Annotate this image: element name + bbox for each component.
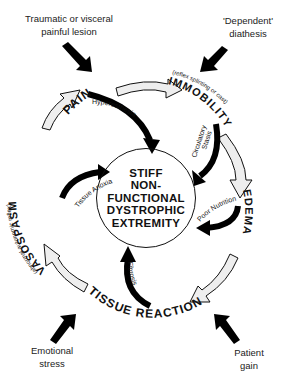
arrow-tissue-anoxia	[62, 172, 100, 198]
factor-traumatic-lesion: Traumatic or visceral painful lesion	[4, 12, 134, 38]
center-line-3: FUNCTIONAL	[107, 192, 185, 205]
arrow-traumatic	[62, 42, 92, 72]
factor-dependent-diathesis: 'Dependent' diathesis	[208, 14, 287, 40]
factor-emotional-l2: stress	[22, 357, 82, 370]
factor-patient-gain: Patient gain	[224, 346, 274, 372]
center-line-2: NON-	[131, 179, 162, 192]
arrow-emotional	[50, 314, 76, 344]
node-edema: EDEMA	[241, 188, 256, 236]
center-outcome-circle: STIFF NON- FUNCTIONAL DYSTROPHIC EXTREMI…	[96, 148, 196, 248]
svg-text:EDEMA: EDEMA	[241, 188, 256, 236]
factor-emotional-l1: Emotional	[22, 344, 82, 357]
arrow-patient-gain	[214, 314, 240, 344]
factor-traumatic-l1: Traumatic or visceral	[4, 12, 134, 25]
factor-patient-l2: gain	[224, 359, 274, 372]
arrow-tissue-to-vasospasm	[44, 244, 88, 292]
arrow-immobility-to-edema	[218, 134, 252, 198]
center-line-5: EXTREMITY	[112, 217, 181, 230]
factor-traumatic-l2: painful lesion	[4, 25, 134, 38]
factor-emotional-stress: Emotional stress	[22, 344, 82, 370]
factor-patient-l1: Patient	[224, 346, 274, 359]
factor-dependent-l2: diathesis	[208, 27, 287, 40]
arrow-dependent	[200, 46, 228, 72]
center-line-4: DYSTROPHIC	[107, 204, 185, 217]
factor-dependent-l1: 'Dependent'	[208, 14, 287, 27]
center-line-1: STIFF	[129, 167, 162, 180]
arrow-hyperesthesia	[88, 94, 150, 140]
